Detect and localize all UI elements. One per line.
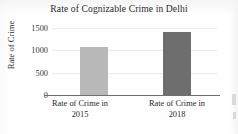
gridline-500	[52, 73, 217, 74]
edge-smudge-lower	[233, 112, 236, 119]
category-2018-line1: Rate of Crime in	[149, 99, 205, 108]
y-tick-label-500: 500	[4, 68, 48, 77]
category-2015-line2: 2015	[41, 110, 119, 121]
bar-chart-figure: Rate of Cognizable Crime in Delhi Rate o…	[0, 0, 238, 134]
bar-rate-of-crime-2015	[80, 47, 108, 95]
gridline-1000	[52, 50, 217, 51]
y-tick-label-1000: 1000	[4, 46, 48, 55]
x-axis-category-label-2018: Rate of Crime in 2018	[138, 99, 216, 120]
gridline-1500	[52, 28, 217, 29]
category-2015-line1: Rate of Crime in	[52, 99, 108, 108]
edge-smudge-upper	[232, 94, 236, 105]
y-tick-label-1500: 1500	[4, 24, 48, 33]
bar-rate-of-crime-2018	[163, 32, 191, 95]
x-axis-category-label-2015: Rate of Crime in 2015	[41, 99, 119, 120]
category-2018-line2: 2018	[138, 110, 216, 121]
x-axis-line	[44, 95, 220, 96]
plot-area	[52, 25, 217, 95]
